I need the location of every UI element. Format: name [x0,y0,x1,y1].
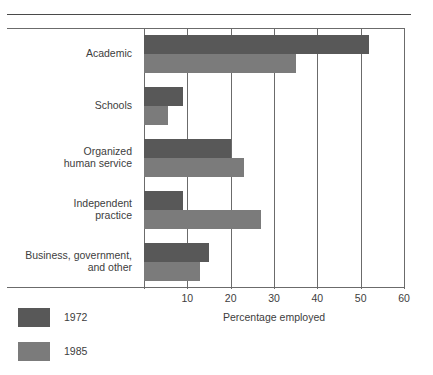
bar-1972-1 [144,87,183,106]
x-axis-title: Percentage employed [144,311,404,323]
bar-1985-2 [144,158,244,177]
bar-1985-4 [144,262,200,281]
x-tick-label-60: 60 [392,292,416,304]
legend-swatch-1972 [18,308,50,327]
x-tick-label-10: 10 [175,292,199,304]
x-tick-label-40: 40 [305,292,329,304]
bar-chart-figure: AcademicSchoolsOrganized human serviceIn… [0,0,433,375]
bar-1972-0 [144,35,369,54]
legend-label-1972: 1972 [64,311,87,323]
bar-1985-3 [144,210,261,229]
bar-1972-3 [144,191,183,210]
bar-1985-0 [144,54,296,73]
legend-swatch-1985 [18,342,50,361]
x-tick-label-20: 20 [219,292,243,304]
bar-1985-1 [144,106,168,125]
bar-1972-4 [144,243,209,262]
bar-1972-2 [144,139,231,158]
x-tick-label-30: 30 [262,292,286,304]
legend-label-1985: 1985 [64,345,87,357]
x-tick-label-50: 50 [349,292,373,304]
